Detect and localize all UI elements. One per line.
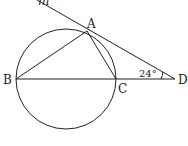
angle-arc-d (161, 72, 163, 79)
label-c: C (118, 82, 127, 96)
label-a: A (86, 17, 96, 31)
geometry-diagram: m A B C D 24° (0, 0, 188, 146)
label-b: B (3, 73, 12, 87)
segment-ab (16, 31, 87, 79)
segment-ac (87, 31, 116, 79)
label-m: m (38, 0, 49, 8)
angle-label-24: 24° (139, 68, 157, 79)
label-d: D (178, 73, 188, 87)
